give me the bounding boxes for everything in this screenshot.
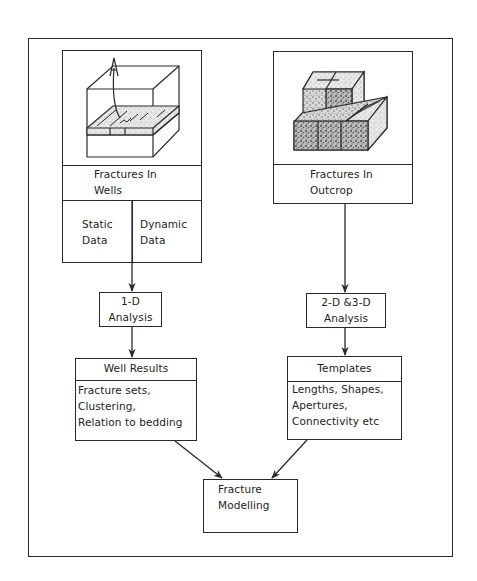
templates-item: Lengths, Shapes,: [292, 382, 384, 398]
fractures-in-outcrop-box: Fractures In Outcrop: [273, 51, 413, 204]
2d-3d-analysis-line2: Analysis: [307, 311, 385, 327]
static-data-line2: Data: [82, 233, 107, 249]
well-results-item: Fracture sets,: [78, 383, 151, 399]
templates-item: Apertures,: [292, 398, 348, 414]
wells-title-line1: Fractures In: [94, 167, 157, 183]
2d-3d-analysis-line1: 2-D &3-D: [307, 295, 385, 311]
templates-item: Connectivity etc: [292, 414, 379, 430]
fracture-modelling-line2: Modelling: [218, 498, 270, 514]
templates-header: Templates: [288, 361, 401, 377]
well-results-header: Well Results: [76, 361, 196, 377]
fracture-modelling-line1: Fracture: [218, 482, 262, 498]
templates-box: Templates Lengths, Shapes, Apertures, Co…: [287, 356, 402, 440]
outcrop-title-line1: Fractures In: [310, 167, 373, 183]
well-results-item: Clustering,: [78, 399, 136, 415]
1d-analysis-box: 1-D Analysis: [99, 292, 162, 327]
divider: [63, 165, 201, 166]
dynamic-data-line1: Dynamic: [140, 217, 187, 233]
1d-analysis-line2: Analysis: [100, 310, 161, 326]
divider: [76, 380, 196, 381]
2d-3d-analysis-box: 2-D &3-D Analysis: [306, 293, 386, 328]
1d-analysis-line1: 1-D: [100, 294, 161, 310]
divider: [274, 164, 412, 165]
fracture-modelling-box: Fracture Modelling: [203, 479, 298, 533]
fractures-in-wells-box: Fractures In Wells Static Data Dynamic D…: [62, 50, 202, 263]
dynamic-data-line2: Data: [140, 233, 165, 249]
static-data-line1: Static: [82, 217, 113, 233]
well-results-item: Relation to bedding: [78, 415, 183, 431]
wells-title-line2: Wells: [94, 183, 122, 199]
outcrop-title-line2: Outcrop: [310, 183, 353, 199]
static-dynamic-divider: [132, 200, 133, 263]
well-results-box: Well Results Fracture sets, Clustering, …: [75, 358, 197, 441]
